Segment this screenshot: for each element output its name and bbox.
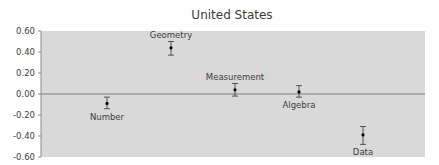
point-label: Number xyxy=(90,112,125,122)
point-label: Data xyxy=(353,147,373,157)
y-tick-label: 0.40 xyxy=(16,47,35,57)
point-marker xyxy=(233,88,236,91)
point-marker xyxy=(297,90,300,93)
y-tick-label: -0.20 xyxy=(13,110,35,120)
y-tick-label: 0.00 xyxy=(16,89,35,99)
point-label: Measurement xyxy=(206,72,265,82)
point-label: Geometry xyxy=(150,30,192,40)
y-tick-label: 0.20 xyxy=(16,68,35,78)
y-tick-label: -0.60 xyxy=(13,152,35,162)
chart: United States 0.600.400.200.00-0.20-0.40… xyxy=(0,0,439,165)
point-marker xyxy=(169,46,172,49)
point-marker xyxy=(361,133,364,136)
y-tick-label: 0.60 xyxy=(16,26,35,36)
y-axis: 0.600.400.200.00-0.20-0.40-0.60 xyxy=(13,26,41,162)
point-label: Algebra xyxy=(283,100,316,110)
point-marker xyxy=(105,102,108,105)
y-tick-label: -0.40 xyxy=(13,131,35,141)
chart-title: United States xyxy=(191,8,272,22)
